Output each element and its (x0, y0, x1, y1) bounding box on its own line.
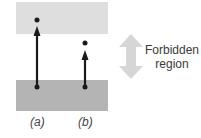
label-b: (b) (78, 115, 93, 129)
upper-band (16, 2, 108, 34)
label-a: (a) (30, 115, 45, 129)
forbidden-label-line2: region (142, 57, 201, 71)
lower-band (16, 80, 108, 111)
double-arrow-icon (119, 34, 143, 79)
forbidden-label-line1: Forbidden (142, 43, 201, 57)
